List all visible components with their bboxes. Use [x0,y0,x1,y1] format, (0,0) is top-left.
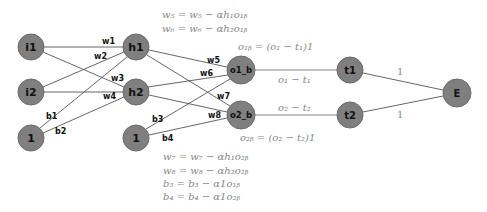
equation-b4: b₄ = b₄ − α1o₂ᵦ [163,191,240,202]
node-i1: i1 [18,34,44,60]
label-w7: w7 [217,92,230,101]
node-E-label: E [454,88,461,99]
node-t2-label: t2 [344,110,356,121]
edge-math-labels: o₁ − t₁ o₂ − t₂ 1 1 o₁ᵦ = (o₁ − t₁)1 o₂ᵦ… [238,41,403,143]
equation-w6: w₆ = w₆ − αh₂o₁ᵦ [162,23,248,34]
label-w4: w4 [103,92,116,101]
node-o2b-label: o2_b [230,110,252,120]
label-w3: w3 [111,74,124,83]
edge-h2-o1 [148,75,228,87]
node-t2: t2 [337,102,363,128]
label-w6: w6 [200,69,213,78]
label-t1-E: 1 [397,66,403,77]
node-o2b: o2_b [227,101,255,129]
node-t1-label: t1 [344,65,356,76]
label-w8: w8 [208,111,221,120]
node-bias-input: 1 [18,125,44,151]
label-w5: w5 [207,56,220,65]
equation-w5: w₅ = w₅ − αh₁o₁ᵦ [162,9,248,20]
label-b3: b3 [152,115,163,124]
label-b2: b2 [55,127,66,136]
label-b4: b4 [162,134,174,143]
label-o1-minus-t1: o₁ − t₁ [278,74,311,85]
node-h2: h2 [123,79,149,105]
label-w1: w1 [102,37,115,46]
equation-w8: w₈ = w₈ − αh₂o₂ᵦ [163,165,249,176]
label-o2-minus-t2: o₂ − t₂ [278,102,311,113]
node-bias-input-label: 1 [27,132,35,145]
node-bias-hidden: 1 [123,125,149,151]
equation-b3: b₃ = b₃ − α1o₁ᵦ [163,178,240,189]
node-h2-label: h2 [128,86,144,99]
label-o2b-equation: o₂ᵦ = (o₂ − t₂)1 [240,132,315,143]
equations-bottom: w₇ = w₇ − αh₁o₂ᵦ w₈ = w₈ − αh₂o₂ᵦ b₃ = b… [163,151,249,202]
node-i1-label: i1 [25,41,36,54]
node-i2: i2 [18,79,44,105]
node-h1-label: h1 [128,41,144,54]
node-o1b: o1_b [227,56,255,84]
node-bias-hidden-label: 1 [132,132,140,145]
label-o1b-equation: o₁ᵦ = (o₁ − t₁)1 [238,41,313,52]
label-t2-E: 1 [397,109,403,120]
equation-w7: w₇ = w₇ − αh₁o₂ᵦ [163,151,249,162]
equations-top: w₅ = w₅ − αh₁o₁ᵦ w₆ = w₆ − αh₂o₁ᵦ [162,9,248,34]
node-o1b-label: o1_b [230,65,252,75]
node-t1: t1 [337,57,363,83]
node-h1: h1 [123,34,149,60]
neural-network-diagram: w1 w2 w3 w4 b1 b2 w5 w6 w7 w8 b3 b4 o₁ −… [0,0,487,212]
label-b1: b1 [46,112,58,121]
node-i2-label: i2 [25,86,36,99]
node-E: E [443,79,471,107]
label-w2: w2 [94,52,107,61]
